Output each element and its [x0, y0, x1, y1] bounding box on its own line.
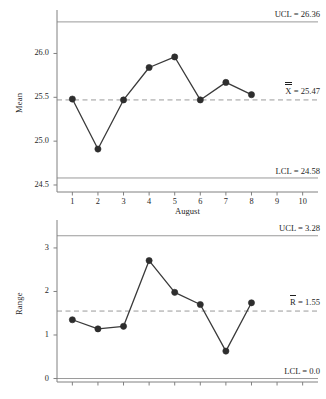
range-data-point	[172, 289, 178, 295]
range-data-point	[197, 301, 203, 307]
xbar-center-symbol: X	[285, 87, 291, 96]
range-center-line-label: R = 1.55	[290, 297, 320, 307]
range-data-point	[223, 348, 229, 354]
xbar-x-tick-label: 10	[296, 197, 310, 206]
xbar-chart-panel: Mean UCL = 26.36 X = 25.47 LCL = 24.58 A…	[0, 0, 326, 222]
xbar-data-point	[197, 97, 203, 103]
xbar-data-point	[172, 54, 178, 60]
xbar-y-tick-label: 24.5	[15, 180, 49, 189]
xbar-y-tick-label: 26.0	[15, 48, 49, 57]
xbar-center-value: = 25.47	[294, 86, 320, 96]
xbar-y-tick-label: 25.0	[15, 136, 49, 145]
range-series-line	[72, 261, 251, 352]
range-ucl-label: UCL = 3.28	[279, 223, 320, 233]
range-y-tick-label: 1	[15, 330, 49, 339]
xbar-x-tick-label: 1	[65, 197, 79, 206]
range-chart-panel: Range UCL = 3.28 R = 1.55 LCL = 0.0 0123	[0, 210, 326, 399]
range-lcl-label: LCL = 0.0	[284, 366, 320, 376]
xbar-x-tick-label: 9	[270, 197, 284, 206]
xbar-data-point	[69, 96, 75, 102]
xbar-lcl-label: LCL = 24.58	[276, 166, 320, 176]
range-plot-area	[0, 210, 326, 399]
range-data-point	[120, 323, 126, 329]
xbar-x-tick-label: 7	[219, 197, 233, 206]
range-data-point	[248, 300, 254, 306]
range-y-tick-label: 2	[15, 286, 49, 295]
xbar-data-point	[146, 64, 152, 70]
xbar-x-tick-label: 8	[244, 197, 258, 206]
control-chart-figure: Mean UCL = 26.36 X = 25.47 LCL = 24.58 A…	[0, 0, 326, 399]
xbar-x-tick-label: 5	[168, 197, 182, 206]
xbar-x-tick-label: 4	[142, 197, 156, 206]
xbar-ucl-label: UCL = 26.36	[275, 9, 320, 19]
xbar-data-point	[95, 146, 101, 152]
xbar-series-line	[72, 57, 251, 149]
xbar-center-line-label: X = 25.47	[285, 86, 320, 96]
range-center-value: = 1.55	[298, 297, 320, 307]
xbar-data-point	[248, 92, 254, 98]
xbar-x-tick-label: 2	[91, 197, 105, 206]
xbar-x-tick-label: 6	[193, 197, 207, 206]
range-center-symbol: R	[290, 298, 296, 307]
range-data-point	[69, 317, 75, 323]
range-y-tick-label: 0	[15, 374, 49, 383]
range-data-point	[146, 257, 152, 263]
xbar-data-point	[223, 79, 229, 85]
xbar-y-tick-label: 25.5	[15, 92, 49, 101]
xbar-x-tick-label: 3	[117, 197, 131, 206]
range-data-point	[95, 326, 101, 332]
xbar-data-point	[120, 97, 126, 103]
range-y-tick-label: 3	[15, 243, 49, 252]
